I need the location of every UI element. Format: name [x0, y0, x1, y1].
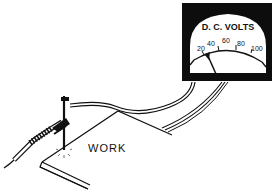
- scale-label-40: 40: [207, 40, 215, 47]
- meter-title: D. C. VOLTS: [202, 22, 254, 32]
- scale-label-80: 80: [237, 40, 245, 47]
- voltmeter: D. C. VOLTS 20 40 60 80 100: [182, 3, 272, 81]
- work-label: WORK: [88, 142, 126, 154]
- electrode-holder: [4, 96, 72, 168]
- scale-label-20: 20: [197, 45, 205, 52]
- arc-welding-voltmeter-diagram: D. C. VOLTS 20 40 60 80 100 WORK: [0, 0, 274, 194]
- scale-label-60: 60: [222, 37, 230, 44]
- scale-label-100: 100: [251, 45, 263, 52]
